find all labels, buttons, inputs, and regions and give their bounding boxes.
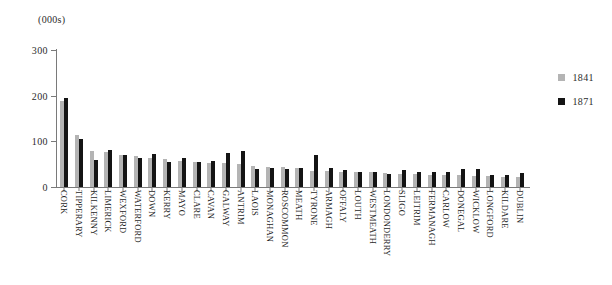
x-axis-label-cell: LAOIS: [248, 190, 263, 282]
x-axis-label: CAVAN: [206, 190, 216, 219]
x-axis-label: KERRY: [162, 190, 172, 219]
x-axis-label: MEATH: [294, 190, 304, 220]
bar-group[interactable]: [189, 50, 204, 187]
bar-group[interactable]: [101, 50, 116, 187]
bar-group[interactable]: [145, 50, 160, 187]
x-axis-label-cell: KILDARE: [498, 190, 513, 282]
bar-1871[interactable]: [255, 169, 259, 187]
bar-group[interactable]: [351, 50, 366, 187]
bar-1871[interactable]: [402, 170, 406, 187]
x-axis-label: MONAGHAN: [265, 190, 275, 242]
bar-1871[interactable]: [167, 162, 171, 187]
legend-entry[interactable]: 1841: [558, 72, 594, 83]
bar-1871[interactable]: [211, 161, 215, 187]
bar-group[interactable]: [233, 50, 248, 187]
bar-group[interactable]: [468, 50, 483, 187]
y-axis-tick-label: 0: [43, 182, 48, 193]
bar-group[interactable]: [263, 50, 278, 187]
legend-swatch-icon: [558, 74, 565, 81]
bar-1871[interactable]: [299, 168, 303, 187]
bar-group[interactable]: [72, 50, 87, 187]
x-axis-label: LONDONDERRY: [382, 190, 392, 256]
bar-1871[interactable]: [79, 139, 83, 187]
bar-group[interactable]: [365, 50, 380, 187]
bar-1871[interactable]: [432, 172, 436, 187]
y-axis-tick: [51, 187, 57, 188]
x-axis-label-cell: LOUTH: [351, 190, 366, 282]
bar-1871[interactable]: [417, 172, 421, 187]
bar-group[interactable]: [219, 50, 234, 187]
bar-1871[interactable]: [197, 162, 201, 187]
bar-group[interactable]: [277, 50, 292, 187]
bar-group[interactable]: [57, 50, 72, 187]
bar-1871[interactable]: [152, 154, 156, 187]
bar-1871[interactable]: [226, 153, 230, 187]
bar-1871[interactable]: [64, 98, 68, 188]
bar-group[interactable]: [175, 50, 190, 187]
bar-1871[interactable]: [343, 170, 347, 187]
bar-1871[interactable]: [520, 173, 524, 187]
x-axis-label-cell: LEITRIM: [410, 190, 425, 282]
bar-group[interactable]: [160, 50, 175, 187]
bar-1871[interactable]: [329, 168, 333, 187]
bar-1871[interactable]: [505, 175, 509, 187]
bar-group[interactable]: [248, 50, 263, 187]
bar-group[interactable]: [395, 50, 410, 187]
bar-1871[interactable]: [358, 172, 362, 187]
x-axis-label-cell: LONGFORD: [483, 190, 498, 282]
x-axis-label: WEXFORD: [118, 190, 128, 233]
bar-group[interactable]: [512, 50, 527, 187]
bar-1871[interactable]: [270, 168, 274, 187]
x-axis-label: CARLOW: [441, 190, 451, 228]
bar-1871[interactable]: [490, 175, 494, 187]
bar-1871[interactable]: [446, 172, 450, 187]
bar-group[interactable]: [454, 50, 469, 187]
bar-1871[interactable]: [461, 169, 465, 187]
x-axis-label: DOWN: [147, 190, 157, 217]
bar-group[interactable]: [86, 50, 101, 187]
bar-group[interactable]: [321, 50, 336, 187]
x-axis-label: LAOIS: [250, 190, 260, 216]
x-axis-label-cell: WEXFORD: [116, 190, 131, 282]
x-axis-line: [56, 187, 530, 188]
bar-1871[interactable]: [108, 150, 112, 187]
bar-group[interactable]: [116, 50, 131, 187]
legend-label: 1871: [572, 96, 594, 107]
bar-1871[interactable]: [241, 151, 245, 187]
bar-group[interactable]: [204, 50, 219, 187]
bar-1871[interactable]: [373, 172, 377, 187]
bar-1871[interactable]: [182, 158, 186, 187]
x-axis-label: ANTRIM: [236, 190, 246, 225]
x-axis-label-cell: DOWN: [145, 190, 160, 282]
bar-group[interactable]: [483, 50, 498, 187]
x-axis-label-cell: ANTRIM: [233, 190, 248, 282]
x-axis-label-cell: LIMERICK: [101, 190, 116, 282]
y-axis-tick-label: 100: [32, 136, 48, 147]
bar-1871[interactable]: [476, 169, 480, 187]
bar-1871[interactable]: [387, 174, 391, 187]
bar-series-area: [57, 50, 527, 187]
y-axis-tick: [51, 141, 57, 142]
bar-1871[interactable]: [285, 169, 289, 187]
legend-label: 1841: [572, 72, 594, 83]
bar-group[interactable]: [336, 50, 351, 187]
bar-group[interactable]: [130, 50, 145, 187]
bar-1871[interactable]: [314, 155, 318, 187]
bar-group[interactable]: [292, 50, 307, 187]
y-axis-tick-label: 300: [32, 45, 48, 56]
x-axis-label-cell: WATERFORD: [130, 190, 145, 282]
bar-group[interactable]: [307, 50, 322, 187]
x-axis-label-cell: SLIGO: [395, 190, 410, 282]
bar-group[interactable]: [380, 50, 395, 187]
bar-group[interactable]: [424, 50, 439, 187]
legend-entry[interactable]: 1871: [558, 96, 594, 107]
x-axis-label: DUBLIN: [515, 190, 525, 223]
bar-group[interactable]: [410, 50, 425, 187]
bar-group[interactable]: [439, 50, 454, 187]
bar-group[interactable]: [498, 50, 513, 187]
x-axis-label-cell: ARMAGH: [321, 190, 336, 282]
bar-1871[interactable]: [123, 155, 127, 187]
bar-1871[interactable]: [138, 158, 142, 187]
x-axis-label: ROSCOMMON: [280, 190, 290, 248]
bar-1871[interactable]: [94, 160, 98, 187]
